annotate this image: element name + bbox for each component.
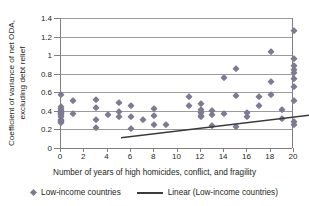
y-tick-label: 1.4 <box>30 14 52 23</box>
data-point <box>220 75 228 83</box>
data-point <box>115 113 123 121</box>
data-point <box>127 102 135 110</box>
y-tick-label: 0.4 <box>30 106 52 115</box>
data-point <box>185 93 193 101</box>
data-point <box>290 28 298 36</box>
data-point <box>127 126 135 134</box>
x-tick-label: 2 <box>75 152 91 161</box>
x-tick-label: 12 <box>192 152 208 161</box>
data-point <box>255 94 263 102</box>
legend-item-line: Linear (Low-income countries) <box>137 188 278 197</box>
x-tick-label: 6 <box>122 152 138 161</box>
x-tick-label: 10 <box>169 152 185 161</box>
data-point <box>279 115 287 123</box>
data-point <box>92 96 100 104</box>
data-point <box>139 116 147 124</box>
legend-item-scatter: Low-income countries <box>31 188 121 197</box>
y-axis-title-line1: Coefficient of variance of net ODA, <box>7 19 18 145</box>
gridline <box>61 55 292 56</box>
y-tick-label: 0.6 <box>30 88 52 97</box>
y-tick-label: 1 <box>30 51 52 60</box>
data-point <box>150 112 158 120</box>
x-tick-label: 0 <box>52 152 68 161</box>
x-tick-label: 16 <box>238 152 254 161</box>
y-tick-label: 1.2 <box>30 32 52 41</box>
line-marker-icon <box>137 192 163 194</box>
data-point <box>104 111 112 119</box>
data-point <box>290 75 298 83</box>
data-point <box>290 97 298 105</box>
y-tick-label: 0.8 <box>30 69 52 78</box>
data-point <box>69 97 77 105</box>
data-point <box>232 92 240 100</box>
data-point <box>267 78 275 86</box>
x-axis-title: Number of years of high homicides, confl… <box>0 168 309 177</box>
gridline <box>61 74 292 75</box>
gridline <box>61 18 292 19</box>
data-point <box>162 121 170 129</box>
data-point <box>115 99 123 107</box>
data-point <box>209 111 217 119</box>
y-axis-title: Coefficient of variance of net ODA, excl… <box>0 0 34 165</box>
y-tick-label: 0 <box>30 144 52 153</box>
data-point <box>255 102 263 110</box>
chart-legend: Low-income countries Linear (Low-income … <box>0 188 309 197</box>
x-tick-label: 8 <box>145 152 161 161</box>
data-point <box>290 83 298 91</box>
y-tick-label: 0.2 <box>30 125 52 134</box>
legend-label-line: Linear (Low-income countries) <box>168 188 278 197</box>
data-point <box>232 65 240 73</box>
x-tick-label: 18 <box>262 152 278 161</box>
data-point <box>185 102 193 110</box>
data-point <box>150 121 158 129</box>
x-tick-label: 14 <box>215 152 231 161</box>
gridline <box>61 37 292 38</box>
chart-figure: Coefficient of variance of net ODA, excl… <box>0 0 309 206</box>
plot-area <box>60 18 293 148</box>
data-point <box>92 124 100 132</box>
data-point <box>92 116 100 124</box>
data-point <box>244 113 252 121</box>
y-axis-title-line2: excluding debt relief <box>17 19 28 145</box>
data-point <box>127 113 135 121</box>
x-tick-label: 20 <box>285 152 301 161</box>
x-tick-label: 4 <box>99 152 115 161</box>
diamond-marker-icon <box>30 189 37 196</box>
legend-label-scatter: Low-income countries <box>41 188 121 197</box>
